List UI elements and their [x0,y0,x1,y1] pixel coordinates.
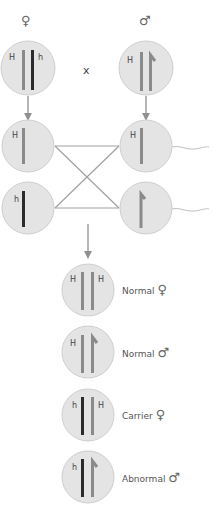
normal-x-chromosome [22,50,25,90]
normal-x-chromosome [140,52,143,91]
allele-label: H [70,339,76,348]
offspring-carrier-female: h H [62,389,114,441]
inheritance-diagram: ♀ H h x ♂ H H h H [0,0,214,507]
normal-x-chromosome [140,128,143,164]
allele-label: h [72,401,77,410]
allele-label: H [9,53,15,62]
sperm-cell-H: H [120,120,209,172]
allele-label: H [127,56,133,65]
mutant-x-chromosome [22,191,25,227]
offspring-status-label: Abnormal ♂ [122,470,180,485]
cross-symbol: x [83,64,90,77]
allele-label: h [72,463,77,472]
offspring-normal-female: H H [62,264,114,316]
normal-x-chromosome [91,272,94,310]
female-parent-cell: H h [1,41,55,95]
normal-x-chromosome [91,397,94,435]
sperm-cell-Y [120,182,209,234]
sperm-tail [172,147,209,150]
allele-label: h [14,195,19,204]
allele-label: H [98,275,104,284]
offspring-abnormal-male: h [62,451,114,503]
allele-label: H [98,401,104,410]
female-symbol: ♀ [21,13,31,28]
offspring-normal-male: H [62,326,114,378]
offspring-status-label: Carrier ♀ [122,407,165,422]
fertilization-cross-lines [55,146,119,208]
male-parent-cell: H [119,41,173,95]
allele-label: H [70,275,76,284]
mutant-x-chromosome [31,50,34,90]
allele-label: h [38,53,43,62]
normal-x-chromosome [81,272,84,310]
mutant-x-chromosome [81,397,84,435]
egg-cell-h: h [2,182,54,234]
male-symbol: ♂ [139,13,151,28]
normal-x-chromosome [81,335,84,373]
offspring-status-label: Normal ♀ [122,282,167,297]
normal-x-chromosome [22,128,25,164]
allele-label: H [130,131,136,140]
egg-cell-H: H [2,120,54,172]
offspring-status-label: Normal ♂ [122,345,169,360]
sperm-tail [172,209,209,212]
allele-label: H [12,131,18,140]
mutant-x-chromosome [81,459,84,497]
